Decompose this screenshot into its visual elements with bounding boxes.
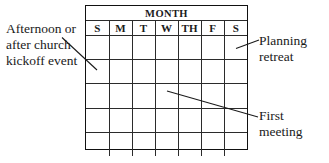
calendar-cell[interactable]: [201, 60, 224, 84]
calendar-cell[interactable]: [109, 60, 132, 84]
calendar-cell[interactable]: [132, 36, 155, 60]
calendar-cell[interactable]: [132, 60, 155, 84]
day-header-wednesday: W: [155, 21, 178, 36]
calendar-week-row: [86, 132, 247, 156]
calendar-cell[interactable]: [224, 108, 247, 132]
calendar-table: MONTH S M T W TH F S: [86, 6, 247, 156]
annotation-label-planning-retreat: Planning retreat: [259, 33, 327, 65]
day-of-week-row: S M T W TH F S: [86, 21, 247, 36]
calendar-cell[interactable]: [132, 132, 155, 156]
calendar-cell[interactable]: [132, 84, 155, 108]
day-header-saturday: S: [224, 21, 247, 36]
calendar-grid: MONTH S M T W TH F S: [85, 5, 248, 150]
calendar-cell[interactable]: [201, 108, 224, 132]
day-header-sunday: S: [86, 21, 109, 36]
calendar-cell[interactable]: [155, 108, 178, 132]
calendar-cell[interactable]: [201, 132, 224, 156]
calendar-cell[interactable]: [201, 84, 224, 108]
calendar-annotation-diagram: MONTH S M T W TH F S: [0, 0, 329, 163]
calendar-week-row: [86, 60, 247, 84]
month-header-row: MONTH: [86, 6, 247, 21]
calendar-cell[interactable]: [155, 84, 178, 108]
calendar-week-row: [86, 108, 247, 132]
calendar-cell[interactable]: [109, 132, 132, 156]
calendar-cell[interactable]: [224, 36, 247, 60]
calendar-cell[interactable]: [178, 108, 201, 132]
calendar-cell[interactable]: [178, 60, 201, 84]
annotation-label-kickoff-event: Afternoon or after church kickoff event: [6, 21, 82, 70]
calendar-cell[interactable]: [109, 36, 132, 60]
calendar-cell[interactable]: [155, 132, 178, 156]
day-header-tuesday: T: [132, 21, 155, 36]
annotation-label-first-meeting: First meeting: [259, 108, 327, 140]
calendar-cell[interactable]: [155, 60, 178, 84]
calendar-cell[interactable]: [86, 84, 109, 108]
calendar-cell[interactable]: [155, 36, 178, 60]
calendar-cell[interactable]: [86, 132, 109, 156]
calendar-cell[interactable]: [86, 36, 109, 60]
calendar-cell[interactable]: [178, 36, 201, 60]
day-header-thursday: TH: [178, 21, 201, 36]
calendar-week-row: [86, 84, 247, 108]
calendar-cell[interactable]: [86, 60, 109, 84]
month-header-cell: MONTH: [86, 6, 247, 21]
calendar-cell[interactable]: [86, 108, 109, 132]
calendar-cell[interactable]: [132, 108, 155, 132]
calendar-week-row: [86, 36, 247, 60]
calendar-cell[interactable]: [109, 84, 132, 108]
calendar-cell[interactable]: [178, 84, 201, 108]
calendar-cell[interactable]: [109, 108, 132, 132]
day-header-friday: F: [201, 21, 224, 36]
calendar-cell[interactable]: [201, 36, 224, 60]
calendar-cell[interactable]: [224, 84, 247, 108]
day-header-monday: M: [109, 21, 132, 36]
calendar-cell[interactable]: [224, 132, 247, 156]
calendar-cell[interactable]: [224, 60, 247, 84]
calendar-cell[interactable]: [178, 132, 201, 156]
